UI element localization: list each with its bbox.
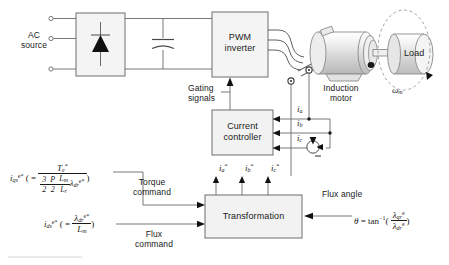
command-current-lines — [216, 182, 268, 195]
flux-angle-numerator: λqre — [391, 210, 407, 221]
ac-source-label-line1: AC — [28, 30, 40, 40]
flux-angle-arrowhead — [304, 213, 313, 219]
flux-angle-den-sup: e — [402, 222, 405, 228]
flux-command-arrowhead — [197, 221, 205, 227]
torque-eq-den-f3-num-sub: m — [64, 178, 68, 184]
torque-eq-numerator: Te* — [38, 163, 86, 174]
rotor-speed-label: ωm — [392, 85, 403, 95]
torque-eq-den-f3: Lm Lr — [57, 174, 70, 194]
flux-eq-close-paren: ) — [91, 219, 94, 229]
induction-motor-label-line1: Induction — [323, 83, 358, 93]
junction-dots — [307, 117, 331, 134]
flux-eq-lhs-sup: e* — [52, 219, 58, 225]
command-current-a: ia* — [219, 163, 228, 173]
flux-angle-func: tan — [368, 216, 379, 226]
pwm-inverter-label: PWM inverter — [212, 32, 268, 53]
flux-angle-fraction: λqre λdre — [391, 210, 407, 232]
flux-angle-equals: = — [361, 216, 366, 226]
torque-eq-den-f2-den: 2 — [48, 185, 57, 194]
torque-eq-den-f3-den-sub: r — [65, 188, 67, 194]
torque-command-label-line1: Torque — [139, 177, 166, 187]
torque-eq-denominator: 3 2 P 2 Lm Lr λdre* — [38, 174, 86, 194]
torque-eq-den-f2-num: P — [48, 175, 57, 185]
torque-command-equation: iqse* ( = Te* 3 2 P 2 Lm Lr λdre* ) — [10, 163, 90, 194]
torque-eq-num-sup: * — [65, 163, 68, 169]
flux-command-label-line1: Flux — [146, 229, 162, 239]
flux-angle-open-paren: ( — [385, 216, 388, 226]
command-current-b-sup: * — [251, 163, 254, 169]
flux-angle-denominator: λdre — [391, 221, 407, 231]
ac-source-label-line2: source — [21, 40, 47, 50]
torque-eq-den-tail: λdre* — [70, 179, 84, 188]
torque-eq-den-f3-num: Lm — [57, 174, 70, 184]
flux-angle-num-sup: e — [402, 210, 405, 216]
flux-eq-denominator: Lm — [72, 224, 91, 234]
current-feedback-arrowheads — [273, 116, 281, 151]
torque-eq-open-paren: ( = — [26, 173, 36, 183]
current-sensor-summing-node — [307, 137, 323, 156]
transformation-label-text: Transformation — [223, 211, 285, 221]
gating-signals-label-line1: Gating — [188, 83, 214, 93]
feedback-current-a: ia — [297, 104, 303, 114]
flux-command-equation: idse* ( = λdre* Lm ) — [44, 213, 94, 235]
current-feedback-lines — [278, 119, 330, 148]
torque-eq-fraction: Te* 3 2 P 2 Lm Lr λdre* — [38, 163, 86, 194]
induction-motor-body — [310, 26, 397, 81]
flux-angle-title: Flux angle — [322, 190, 362, 200]
motor-phase-leads — [268, 30, 304, 70]
flux-angle-title-text: Flux angle — [322, 189, 362, 199]
flux-eq-num-sup: e* — [84, 213, 90, 219]
feedback-current-c-sub: c — [300, 137, 303, 143]
flux-eq-fraction: λdre* Lm — [72, 213, 91, 235]
command-current-c-sup: * — [276, 163, 279, 169]
load-label: Load — [404, 48, 424, 58]
torque-eq-lhs-sup: e* — [18, 174, 24, 180]
vector-control-diagram: AC source PWM inverter Gating signals In… — [0, 0, 449, 265]
diode-rectifier-block — [76, 13, 125, 76]
feedback-current-a-sub: a — [300, 108, 303, 114]
current-controller-label-line1: Current — [227, 121, 258, 131]
command-current-c: ic* — [271, 163, 279, 173]
flux-angle-close-paren: ) — [407, 216, 410, 226]
pwm-inverter-label-line1: PWM — [229, 32, 251, 42]
transformation-label: Transformation — [205, 211, 302, 222]
induction-motor-label-line2: motor — [330, 93, 352, 103]
torque-eq-close-paren: ) — [87, 173, 90, 183]
load-label-text: Load — [404, 48, 424, 58]
gating-signals-label: Gating signals — [188, 84, 230, 103]
pwm-inverter-label-line2: inverter — [225, 43, 256, 53]
torque-command-arrowhead — [197, 202, 205, 208]
torque-command-label-line2: command — [133, 187, 171, 197]
gating-signals-label-line2: signals — [188, 93, 215, 103]
ac-source-label: AC source — [12, 31, 56, 50]
torque-command-label: Torque command — [126, 178, 178, 197]
dc-link-wiring — [125, 19, 212, 70]
flux-angle-equation: θ = tan−1( λqre λdre ) — [354, 210, 410, 232]
current-controller-label-line2: controller — [223, 132, 261, 142]
omega-subscript: m — [398, 89, 402, 95]
flux-eq-open-paren: ( = — [60, 219, 70, 229]
command-current-b: ib* — [245, 163, 254, 173]
torque-eq-den-f1-num: 3 — [40, 175, 48, 185]
feedback-current-b-sub: b — [300, 122, 303, 128]
torque-eq-den-f2: P 2 — [48, 175, 57, 194]
current-controller-label: Current controller — [212, 121, 273, 142]
torque-eq-den-f1-den: 2 — [40, 185, 48, 194]
feedback-current-b: ib — [297, 118, 303, 128]
induction-motor-label: Induction motor — [310, 84, 372, 103]
torque-eq-den-f3-den: Lr — [57, 185, 70, 194]
dc-link-capacitor — [152, 40, 174, 49]
feedback-current-c: ic — [297, 133, 302, 143]
torque-eq-den-f1: 3 2 — [40, 175, 48, 194]
torque-eq-den-tail-sup: e* — [79, 179, 85, 185]
flux-angle-theta: θ — [354, 216, 358, 226]
command-current-arrowheads — [213, 176, 271, 183]
flux-eq-numerator: λdre* — [72, 213, 91, 224]
flux-eq-den-sub: m — [82, 229, 86, 235]
flux-command-label: Flux command — [128, 230, 180, 249]
flux-command-label-line2: command — [135, 239, 173, 249]
command-current-a-sup: * — [225, 163, 228, 169]
